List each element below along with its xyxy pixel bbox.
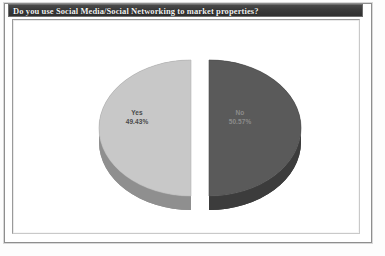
screenshot-stage: Do you use Social Media/Social Networkin… <box>0 0 385 256</box>
pie-label-yes-value: 49.43% <box>109 118 165 127</box>
chart-title-bar: Do you use Social Media/Social Networkin… <box>8 4 363 17</box>
pie-label-yes: Yes 49.43% <box>109 109 165 126</box>
page-title: Do you use Social Media/Social Networkin… <box>13 5 259 17</box>
chart-plot-panel: Yes 49.43% No 50.57% <box>12 19 360 234</box>
pie-label-no: No 50.57% <box>212 109 268 126</box>
pie-label-no-value: 50.57% <box>212 118 268 127</box>
pie-chart: Yes 49.43% No 50.57% <box>13 20 360 234</box>
pie-label-yes-name: Yes <box>109 109 165 118</box>
pie-label-no-name: No <box>212 109 268 118</box>
pie-chart-svg <box>13 20 360 234</box>
